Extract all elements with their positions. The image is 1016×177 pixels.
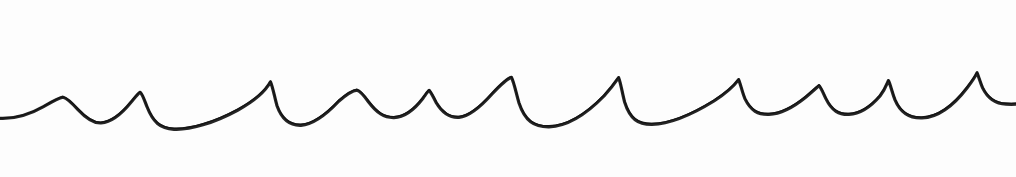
- canvas-background: [0, 0, 1016, 177]
- wave-line-drawing: [0, 0, 1016, 177]
- drawing-canvas: [0, 0, 1016, 177]
